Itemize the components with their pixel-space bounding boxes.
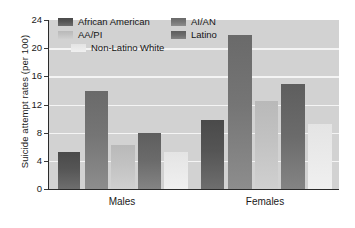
y-tick-label-16: 16 — [31, 71, 42, 81]
legend-entry-aa-pi: AA/PI — [58, 30, 102, 40]
bar-females-ai-an — [228, 35, 252, 189]
y-tick-label-12: 12 — [31, 100, 42, 110]
legend-label-latino: Latino — [191, 30, 217, 40]
x-axis-labels: Males Females — [48, 196, 338, 216]
legend-label-aa-pi: AA/PI — [78, 30, 102, 40]
bar-males-african-american — [58, 152, 80, 189]
plot-area: African American AI/AN AA/PI Latino — [48, 20, 339, 190]
legend-row-3: Non-Latino White — [58, 43, 238, 56]
bar-females-aa-pi — [255, 101, 278, 189]
y-tick-label-20: 20 — [31, 43, 42, 53]
legend-entry-non-latino-white: Non-Latino White — [71, 43, 164, 53]
y-tick-label-0: 0 — [37, 184, 42, 194]
legend-label-ai-an: AI/AN — [191, 17, 216, 27]
legend-swatch-latino — [171, 31, 186, 39]
y-tick-label-4: 4 — [37, 156, 42, 166]
legend-swatch-aa-pi — [58, 31, 73, 39]
legend-entry-african-american: African American — [58, 17, 150, 27]
bar-males-latino — [138, 133, 161, 189]
y-tick-label-24: 24 — [31, 15, 42, 25]
x-tick-label-males: Males — [109, 196, 136, 207]
bar-females-latino — [281, 84, 305, 189]
legend-label-african-american: African American — [78, 17, 150, 27]
legend-swatch-african-american — [58, 18, 73, 26]
bar-females-non-latino-white — [308, 124, 332, 190]
bar-chart: Suicide attempt rates (per 100) 24 20 16… — [0, 0, 355, 228]
legend-entry-ai-an: AI/AN — [171, 17, 216, 27]
bar-males-ai-an — [85, 91, 108, 189]
legend-label-non-latino-white: Non-Latino White — [91, 43, 164, 53]
bar-males-aa-pi — [111, 145, 135, 189]
y-axis-ticks: 24 20 16 12 8 4 0 — [22, 14, 42, 196]
bar-males-non-latino-white — [164, 152, 188, 189]
legend: African American AI/AN AA/PI Latino — [58, 17, 238, 56]
legend-swatch-ai-an — [171, 18, 186, 26]
legend-swatch-non-latino-white — [71, 44, 86, 52]
legend-entry-latino: Latino — [171, 30, 217, 40]
x-tick-label-females: Females — [246, 196, 284, 207]
y-tick-label-8: 8 — [37, 128, 42, 138]
bar-females-african-american — [201, 120, 224, 189]
